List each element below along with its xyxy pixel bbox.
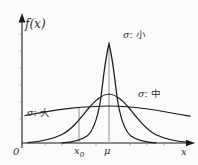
curve-sigma-large xyxy=(25,106,190,116)
x-axis-arrowhead xyxy=(186,140,195,146)
plot-canvas xyxy=(0,0,198,165)
normal-distribution-figure: f(x) 0 x0 μ x σ: 小 σ: 中 σ: 大 xyxy=(0,0,198,165)
y-axis-arrowhead xyxy=(19,13,26,23)
